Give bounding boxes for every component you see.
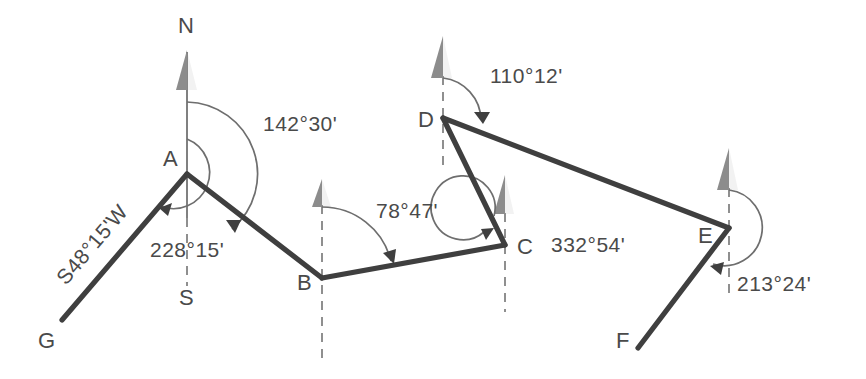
north-arrow-icon-e bbox=[717, 148, 738, 190]
angle-arrowhead-c bbox=[481, 228, 494, 240]
angle-label-b: 78°47' bbox=[376, 199, 438, 222]
angle-arc-a-fore bbox=[187, 102, 258, 229]
angle-arrowhead-b bbox=[383, 249, 396, 264]
station-label-e: E bbox=[698, 223, 713, 248]
station-label-c: C bbox=[517, 234, 533, 259]
traverse-segment-e-f bbox=[638, 228, 729, 348]
north-arrow-icon-b bbox=[312, 179, 331, 207]
cardinal-label-south: S bbox=[179, 285, 194, 310]
north-arrow-icon-d bbox=[431, 36, 452, 78]
angle-arrowhead-d bbox=[474, 112, 490, 124]
angle-label-e: 213°24' bbox=[737, 272, 811, 295]
bearing-label-ga: S48°15'W bbox=[52, 200, 133, 289]
angle-label-a-fore: 142°30' bbox=[263, 112, 337, 135]
cardinal-label-north: N bbox=[178, 13, 194, 38]
traverse-segment-a-b bbox=[187, 174, 322, 278]
angle-label-c: 332°54' bbox=[551, 233, 625, 256]
angle-label-a-back: 228°15' bbox=[150, 238, 224, 261]
angle-label-d: 110°12' bbox=[490, 64, 563, 87]
traverse-segment-b-c bbox=[322, 245, 505, 278]
station-label-f: F bbox=[616, 328, 629, 353]
traverse-diagram: A B C D E F G N S 228°15' 142°30' 78°47'… bbox=[0, 0, 866, 379]
station-label-d: D bbox=[418, 107, 434, 132]
station-label-g: G bbox=[38, 328, 55, 353]
angle-arrowhead-e bbox=[710, 262, 724, 275]
station-label-a: A bbox=[163, 146, 178, 171]
north-arrow-icon-a bbox=[176, 50, 197, 90]
angle-arc-e bbox=[713, 190, 762, 266]
station-label-b: B bbox=[297, 270, 312, 295]
north-arrow-icon-c bbox=[494, 175, 514, 214]
diagram-canvas: A B C D E F G N S 228°15' 142°30' 78°47'… bbox=[0, 0, 866, 379]
angle-arrowhead-a-fore bbox=[226, 220, 241, 233]
